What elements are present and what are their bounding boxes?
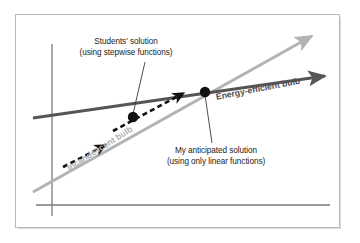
annotation-students-solution: Students' solution (using stepwise funct… <box>64 37 188 58</box>
annotation-anticipated-solution: My anticipated solution (using only line… <box>146 146 286 167</box>
annotation-students-line1: Students' solution <box>64 37 188 48</box>
anticipated-leader-line <box>205 95 212 143</box>
figure-screenshot: Students' solution (using stepwise funct… <box>0 0 360 243</box>
students-leader-line <box>133 62 145 114</box>
stepwise-dashed-arrow-2 <box>113 94 182 131</box>
annotation-students-line2: (using stepwise functions) <box>64 48 188 59</box>
anticipated-solution-point <box>200 87 210 97</box>
students-solution-point <box>128 112 138 122</box>
annotation-anticipated-line1: My anticipated solution <box>146 146 286 157</box>
annotation-anticipated-line2: (using only linear functions) <box>146 157 286 168</box>
